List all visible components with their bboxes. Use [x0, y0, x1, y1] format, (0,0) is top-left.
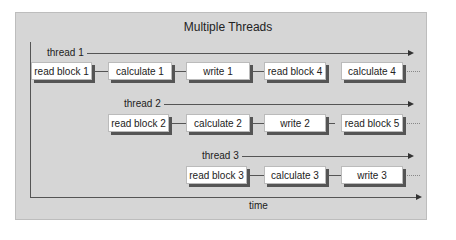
block-write-1: write 1 [186, 62, 250, 80]
block-calculate-2: calculate 2 [186, 114, 250, 132]
thread-2-continuation [400, 123, 420, 124]
block-read-1: read block 1 [31, 62, 92, 80]
block-write-3: write 3 [341, 166, 403, 184]
thread-2-line [155, 104, 410, 105]
thread-2-arrow-icon [408, 101, 414, 107]
block-calculate-1: calculate 1 [108, 62, 172, 80]
thread-3-arrow-icon [408, 153, 414, 159]
block-calculate-3: calculate 3 [264, 166, 326, 184]
thread-3-label: thread 3 [199, 150, 242, 161]
thread-2-label: thread 2 [121, 98, 164, 109]
time-axis-horizontal [30, 197, 418, 198]
block-read-5: read block 5 [341, 114, 403, 132]
thread-1-label: thread 1 [44, 47, 87, 58]
block-write-2: write 2 [264, 114, 326, 132]
thread-1-continuation [400, 71, 420, 72]
block-read-4: read block 4 [264, 62, 326, 80]
thread-3-continuation [400, 175, 420, 176]
time-label: time [246, 200, 271, 211]
thread-3-line [240, 156, 410, 157]
thread-1-arrow-icon [408, 50, 414, 56]
block-read-3: read block 3 [186, 166, 247, 184]
thread-1-line [80, 53, 410, 54]
block-calculate-4: calculate 4 [341, 62, 403, 80]
diagram-title: Multiple Threads [0, 20, 456, 34]
block-read-2: read block 2 [108, 114, 169, 132]
time-arrow-icon [416, 194, 422, 200]
